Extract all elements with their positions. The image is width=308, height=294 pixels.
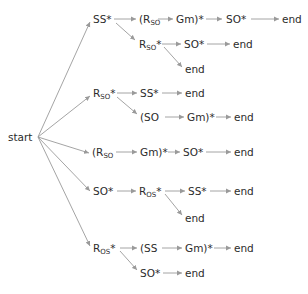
node-label: SS* bbox=[93, 13, 112, 25]
state-node: (RSO bbox=[92, 146, 113, 158]
node-label: start bbox=[8, 131, 32, 143]
node-label: (SO bbox=[140, 111, 159, 123]
node-label: Gm)* bbox=[140, 146, 168, 158]
state-node: (SS bbox=[140, 242, 157, 254]
node-subscript: OS bbox=[100, 248, 110, 256]
node-subscript: SO bbox=[103, 152, 113, 160]
node-label: end bbox=[282, 13, 302, 25]
state-node: SS* bbox=[140, 87, 159, 99]
node-label: end bbox=[234, 185, 254, 197]
node-label: Gm)* bbox=[185, 242, 213, 254]
node-label: SO* bbox=[140, 267, 160, 279]
state-node: SO* bbox=[184, 38, 204, 50]
node-label: (R bbox=[139, 13, 150, 25]
node-label: Gm)* bbox=[176, 13, 204, 25]
node-suffix: * bbox=[110, 242, 115, 254]
state-node: SO* bbox=[140, 267, 160, 279]
state-node: (SO bbox=[140, 111, 159, 123]
state-transition-diagram: startSS*(RSOGm)*SO*endRSO*SO*endendRSO*S… bbox=[0, 0, 308, 294]
state-node: end bbox=[233, 38, 253, 50]
node-label: Gm)* bbox=[187, 111, 215, 123]
node-label: end bbox=[185, 267, 205, 279]
node-label: (R bbox=[92, 146, 103, 158]
node-label: end bbox=[234, 242, 254, 254]
state-node: SO* bbox=[93, 185, 113, 197]
node-label: end bbox=[185, 212, 205, 224]
node-subscript: SO bbox=[146, 44, 156, 52]
node-label: end bbox=[234, 146, 254, 158]
node-label: SO* bbox=[184, 38, 204, 50]
state-node: end bbox=[234, 185, 254, 197]
node-subscript: OS bbox=[146, 191, 156, 199]
state-node: SO* bbox=[183, 146, 203, 158]
node-suffix: * bbox=[156, 185, 161, 197]
state-node: end bbox=[185, 267, 205, 279]
state-node: SS* bbox=[93, 13, 112, 25]
state-node: SS* bbox=[188, 185, 207, 197]
arrow-icon bbox=[117, 97, 137, 114]
start-node: start bbox=[8, 131, 32, 143]
node-suffix: * bbox=[110, 87, 115, 99]
arrow-icon bbox=[116, 23, 135, 40]
node-label: end bbox=[185, 87, 205, 99]
state-node: Gm)* bbox=[140, 146, 168, 158]
state-node: end bbox=[185, 212, 205, 224]
state-node: RSO* bbox=[139, 38, 162, 50]
node-label: (SS bbox=[140, 242, 157, 254]
state-node: ROS* bbox=[93, 242, 116, 254]
arrow-icon bbox=[38, 22, 90, 137]
state-node: SO* bbox=[226, 13, 246, 25]
state-node: end bbox=[234, 242, 254, 254]
state-node: (RSO bbox=[139, 13, 160, 25]
node-subscript: SO bbox=[150, 19, 160, 27]
node-label: end bbox=[234, 111, 254, 123]
arrow-icon bbox=[120, 251, 137, 270]
node-suffix: * bbox=[156, 38, 161, 50]
arrow-icon bbox=[38, 137, 90, 246]
state-node: end bbox=[234, 146, 254, 158]
node-label: SO* bbox=[93, 185, 113, 197]
node-label: SO* bbox=[226, 13, 246, 25]
node-label: SS* bbox=[140, 87, 159, 99]
node-subscript: SO bbox=[100, 93, 110, 101]
node-label: SS* bbox=[188, 185, 207, 197]
state-node: end bbox=[185, 63, 205, 75]
node-label: end bbox=[233, 38, 253, 50]
state-node: end bbox=[185, 87, 205, 99]
arrow-icon bbox=[164, 47, 182, 67]
state-node: Gm)* bbox=[187, 111, 215, 123]
state-node: Gm)* bbox=[176, 13, 204, 25]
node-label: SO* bbox=[183, 146, 203, 158]
state-node: end bbox=[234, 111, 254, 123]
state-node: ROS* bbox=[139, 185, 162, 197]
state-node: end bbox=[282, 13, 302, 25]
state-node: RSO* bbox=[93, 87, 116, 99]
state-node: Gm)* bbox=[185, 242, 213, 254]
arrow-icon bbox=[165, 194, 182, 215]
node-label: end bbox=[185, 63, 205, 75]
arrow-icon bbox=[38, 96, 90, 137]
